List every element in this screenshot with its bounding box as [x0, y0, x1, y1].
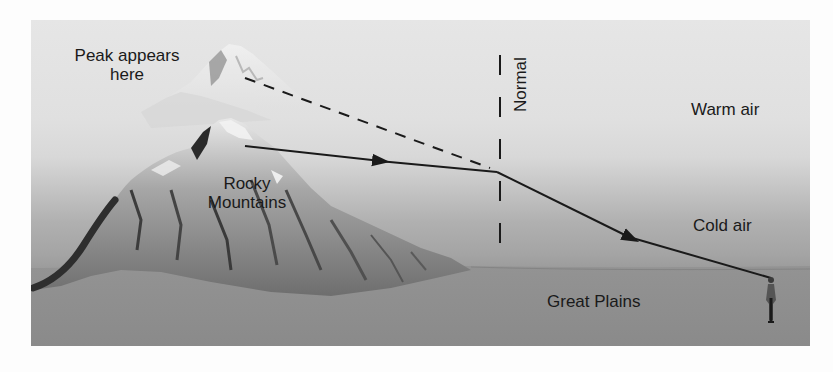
apparent-peak-label: Peak appears here — [57, 46, 197, 84]
refraction-illustration: Peak appears here Rocky Mountains Normal… — [31, 20, 810, 346]
rocky-mountains-label-line1: Rocky — [197, 174, 297, 193]
rocky-mountains-label: Rocky Mountains — [197, 174, 297, 212]
cold-air-label: Cold air — [693, 216, 752, 235]
great-plains-label: Great Plains — [547, 292, 641, 311]
apparent-peak-label-line1: Peak appears — [57, 46, 197, 65]
actual-ray-segment-cold — [497, 172, 631, 238]
apparent-peak-label-line2: here — [57, 65, 197, 84]
normal-label: Normal — [511, 57, 530, 112]
rocky-mountains-label-line2: Mountains — [197, 193, 297, 212]
diagram-stage: Peak appears here Rocky Mountains Normal… — [0, 0, 833, 372]
warm-air-label: Warm air — [691, 100, 759, 119]
